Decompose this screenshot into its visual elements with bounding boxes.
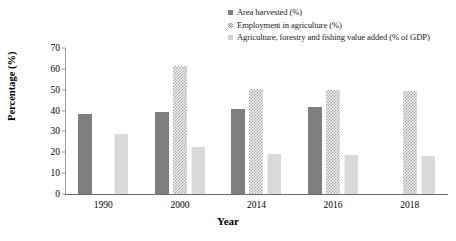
legend-item-label: Employment in agriculture (%): [237, 19, 342, 32]
x-axis-tick-label: 2016: [324, 200, 343, 210]
bar-group: [65, 48, 142, 194]
bar-group: [371, 48, 448, 194]
bar-group: [218, 48, 295, 194]
bar: [421, 156, 435, 194]
bar: [173, 66, 187, 194]
legend-item: Area harvested (%): [228, 6, 456, 19]
bar: [249, 89, 263, 194]
bar: [155, 112, 169, 194]
bar-group: [142, 48, 219, 194]
bar: [78, 114, 92, 194]
legend-item: Agriculture, forestry and fishing value …: [228, 31, 456, 44]
bar: [231, 109, 245, 195]
legend-swatch-icon: [228, 23, 233, 28]
legend-item-label: Area harvested (%): [237, 6, 302, 19]
bar: [191, 147, 205, 194]
legend-item: Employment in agriculture (%): [228, 19, 456, 32]
chart-legend: Area harvested (%) Employment in agricul…: [228, 6, 456, 44]
x-axis-tick-label: 1990: [94, 200, 113, 210]
legend-swatch-icon: [228, 35, 233, 40]
x-axis-tick-label: 2000: [170, 200, 189, 210]
x-axis-tick-label: 2014: [247, 200, 266, 210]
bar: [308, 107, 322, 194]
x-axis-tick-label: 2018: [400, 200, 419, 210]
bar: [403, 91, 417, 194]
bar: [114, 134, 128, 194]
x-axis-line: [65, 194, 448, 195]
y-axis-title: Percentage (%): [6, 52, 17, 121]
bar-chart: Area harvested (%) Employment in agricul…: [0, 0, 456, 241]
legend-swatch-icon: [228, 10, 233, 15]
x-axis-title: Year: [0, 215, 456, 227]
bar-group: [295, 48, 372, 194]
bar: [344, 155, 358, 194]
plot-area: 010203040506070 19902000201420162018: [65, 48, 448, 194]
bar: [326, 90, 340, 194]
legend-item-label: Agriculture, forestry and fishing value …: [237, 31, 430, 44]
bar: [267, 154, 281, 194]
